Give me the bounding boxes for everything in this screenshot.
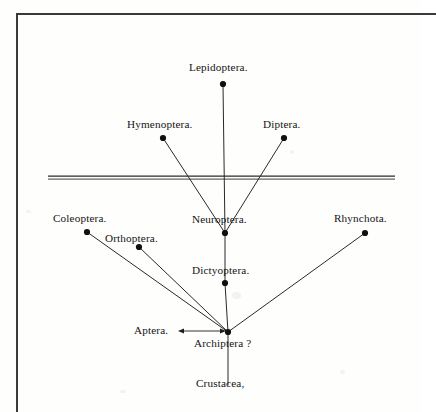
branch-lepidoptera-neuroptera [223, 84, 225, 233]
paper-speck [26, 210, 31, 213]
horizontal-stratum-rule [48, 176, 395, 179]
paper-speck [120, 390, 126, 393]
branch-rhynchota-archiptera [228, 233, 365, 332]
node-label-diptera: Diptera. [263, 119, 301, 130]
node-label-rhynchota: Rhynchota. [334, 213, 387, 224]
node-dot-coleoptera[interactable] [84, 229, 90, 235]
node-label-coleoptera: Coleoptera. [53, 213, 107, 224]
node-label-archiptera: Archiptera ? [194, 338, 251, 349]
arrow-head [178, 328, 184, 333]
node-dot-diptera[interactable] [281, 135, 287, 141]
node-label-hymenoptera: Hymenoptera. [127, 119, 192, 130]
node-dot-orthoptera[interactable] [136, 244, 142, 250]
node-dot-neuroptera[interactable] [222, 230, 228, 236]
aptera-archiptera-arrow [178, 328, 226, 333]
paper-speck [232, 292, 241, 299]
node-dot-lepidoptera[interactable] [220, 81, 226, 87]
node-dot-rhynchota[interactable] [362, 230, 368, 236]
branch-coleoptera-archiptera [87, 232, 228, 332]
node-dot-dictyoptera[interactable] [222, 280, 228, 286]
node-label-neuroptera: Neuroptera. [192, 214, 247, 225]
node-dot-archiptera[interactable] [225, 329, 231, 335]
node-dot-hymenoptera[interactable] [160, 135, 166, 141]
node-label-dictyoptera: Dictyoptera. [192, 265, 249, 276]
node-label-crustacea: Crustacea, [196, 378, 244, 389]
node-label-lepidoptera: Lepidoptera. [189, 62, 248, 73]
node-label-orthoptera: Orthoptera. [105, 233, 158, 244]
branch-dictyoptera-archiptera [225, 283, 228, 332]
node-label-aptera: Aptera. [134, 325, 168, 336]
branch-orthoptera-archiptera [139, 247, 228, 332]
paper-speck [340, 370, 345, 374]
paper-speck [290, 150, 294, 154]
